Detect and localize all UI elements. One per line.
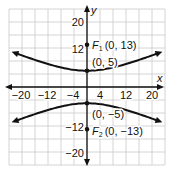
x-tick-label: 12 xyxy=(120,89,132,101)
x-tick-label: −4 xyxy=(67,89,80,101)
y-tick-label: −20 xyxy=(65,147,84,159)
y-tick-label: 12 xyxy=(72,43,84,55)
hyperbola-graph: y x −20 −12 −4 4 12 20 20 12 −12 −20 F1(… xyxy=(0,0,169,174)
x-axis-label: x xyxy=(156,72,163,84)
y-tick-label: −12 xyxy=(65,121,84,133)
upper-left-arrow-icon xyxy=(12,51,20,57)
vertex-upper-point xyxy=(85,68,90,73)
x-tick-label: −12 xyxy=(38,89,57,101)
x-tick-label: 20 xyxy=(146,89,158,101)
x-tick-label: −20 xyxy=(12,89,31,101)
vertex-lower-label: (0, −5) xyxy=(92,108,124,120)
lower-left-arrow-icon xyxy=(12,117,20,123)
x-tick-label: 4 xyxy=(97,89,103,101)
y-axis-up-arrow-icon xyxy=(84,5,90,12)
vertex-lower-point xyxy=(85,101,90,106)
focus-f1-point xyxy=(85,42,90,47)
focus-f2-point xyxy=(85,127,90,132)
upper-right-arrow-icon xyxy=(155,51,163,57)
focus-f1-label: F1(0, 13) xyxy=(92,39,136,52)
lower-right-arrow-icon xyxy=(155,117,163,123)
y-axis-label: y xyxy=(90,4,98,16)
vertex-upper-label: (0, 5) xyxy=(92,56,118,68)
y-tick-label: 20 xyxy=(72,16,84,28)
